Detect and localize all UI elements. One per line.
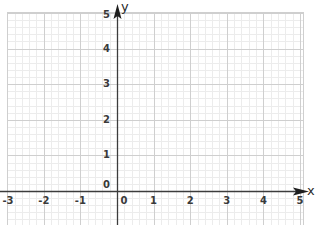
y-tick-label: 5	[103, 9, 110, 20]
x-tick-label: 5	[297, 195, 304, 206]
x-tick-label: 4	[260, 195, 267, 206]
x-axis-label: x	[307, 183, 315, 198]
x-tick-label: 3	[223, 195, 230, 206]
coordinate-plane: -3-2-1012345 012345 x y	[0, 0, 315, 225]
y-tick-label: 3	[103, 78, 110, 89]
y-tick-label: 0	[103, 179, 110, 190]
y-axis-label: y	[121, 0, 129, 14]
y-tick-label: 1	[103, 149, 110, 160]
x-tick-label: 0	[121, 195, 128, 206]
x-tick-label: 1	[150, 195, 157, 206]
x-tick-label: -1	[75, 195, 86, 206]
y-tick-label: 2	[103, 114, 110, 125]
x-tick-label: 2	[187, 195, 194, 206]
x-tick-labels: -3-2-1012345	[2, 195, 303, 206]
y-tick-labels: 012345	[103, 9, 110, 190]
x-tick-label: -2	[38, 195, 49, 206]
x-tick-label: -3	[2, 195, 13, 206]
y-tick-label: 4	[103, 43, 110, 54]
